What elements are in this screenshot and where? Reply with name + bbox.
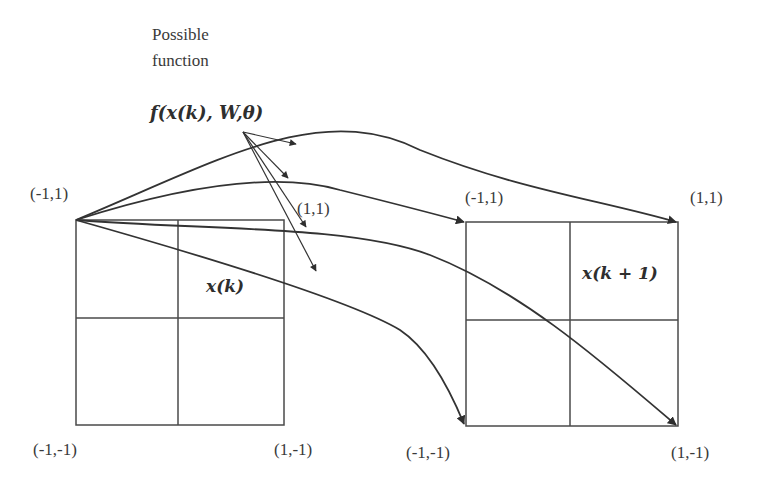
mapping-arrow-to-bottom-right <box>76 220 676 425</box>
caption: Possible function <box>152 22 209 74</box>
left-corner-top-left: (-1,1) <box>30 184 68 204</box>
mapping-arrow-to-top-left <box>76 182 464 222</box>
mapping-arrow-to-top-right <box>76 131 676 222</box>
right-grid-border <box>466 222 678 426</box>
left-corner-bottom-right: (1,-1) <box>274 440 312 460</box>
function-label: f(x(k), W,θ) <box>150 102 263 123</box>
left-corner-top-right: (1,1) <box>297 199 330 219</box>
right-corner-bottom-left: (-1,-1) <box>406 443 450 463</box>
right-corner-top-left: (-1,1) <box>465 188 503 208</box>
right-corner-top-right: (1,1) <box>690 188 723 208</box>
right-corner-bottom-right: (1,-1) <box>671 443 709 463</box>
caption-line-2: function <box>152 48 209 74</box>
diagram-canvas <box>0 0 759 498</box>
caption-line-1: Possible <box>152 22 209 48</box>
left-corner-bottom-left: (-1,-1) <box>33 440 77 460</box>
mapping-arrow-to-bottom-left <box>76 220 464 424</box>
right-state-label: x(k + 1) <box>582 263 658 283</box>
left-state-label: x(k) <box>206 276 244 296</box>
right-grid <box>466 222 678 426</box>
